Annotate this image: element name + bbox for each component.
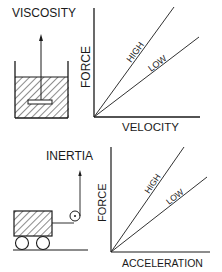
viscosity-y-label: FORCE xyxy=(79,46,93,88)
viscosity-panel: VISCOSITY HIGH LOW FORCE VELOCITY xyxy=(12,6,200,133)
viscosity-low-label: LOW xyxy=(146,53,169,74)
inertia-low-line xyxy=(111,177,207,252)
inertia-x-label: ACCELERATION xyxy=(122,257,203,269)
viscous-container-icon xyxy=(15,34,69,118)
viscosity-x-label: VELOCITY xyxy=(122,121,179,133)
viscosity-high-label: HIGH xyxy=(125,40,146,64)
viscosity-title: VISCOSITY xyxy=(12,6,76,20)
cart-pulley-icon xyxy=(13,170,88,250)
inertia-high-label: HIGH xyxy=(142,172,162,195)
viscosity-low-line xyxy=(94,37,199,117)
inertia-y-label: FORCE xyxy=(96,184,108,223)
inertia-title: INERTIA xyxy=(46,149,93,163)
inertia-low-label: LOW xyxy=(164,187,185,207)
diagram-canvas: VISCOSITY HIGH LOW FORCE VELOCITY INERTI… xyxy=(0,0,222,272)
inertia-panel: INERTIA HIGH LOW FORCE ACCELERATION xyxy=(13,147,210,269)
